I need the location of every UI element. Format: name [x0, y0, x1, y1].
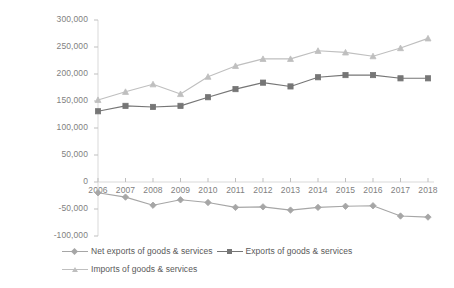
legend-row-1: Net exports of goods & services Exports …: [62, 246, 454, 256]
data-point: [205, 95, 210, 100]
legend-label-imports: Imports of goods & services: [91, 264, 197, 274]
data-point: [315, 75, 320, 80]
data-point: [425, 35, 431, 41]
chart-legend: Net exports of goods & services Exports …: [62, 246, 454, 274]
data-point: [205, 199, 211, 205]
data-point: [150, 202, 156, 208]
data-point: [260, 204, 266, 210]
data-point: [425, 214, 431, 220]
data-point: [425, 76, 430, 81]
line-chart: 300,000250,000200,000150,000100,00050,00…: [0, 0, 454, 288]
data-point: [95, 190, 101, 196]
legend-marker-square: [227, 249, 232, 254]
data-point: [370, 72, 375, 77]
legend-item-exports[interactable]: Exports of goods & services: [217, 246, 353, 256]
data-point: [150, 81, 156, 87]
legend-key-net-exports: [62, 246, 88, 256]
data-point: [177, 197, 183, 203]
data-point: [260, 80, 265, 85]
legend-key-exports: [217, 246, 243, 256]
legend-marker-triangle: [72, 267, 78, 272]
data-point: [315, 204, 321, 210]
data-point: [205, 74, 211, 80]
series-line-2: [98, 38, 428, 100]
legend-key-imports: [62, 264, 88, 274]
data-point: [233, 87, 238, 92]
data-point: [232, 204, 238, 210]
data-point: [95, 109, 100, 114]
data-point: [398, 76, 403, 81]
legend-label-net-exports: Net exports of goods & services: [91, 246, 213, 256]
data-point: [287, 207, 293, 213]
legend-row-2: Imports of goods & services: [62, 264, 454, 274]
data-point: [122, 194, 128, 200]
data-point: [370, 203, 376, 209]
data-point: [150, 104, 155, 109]
plot-area: [0, 0, 454, 288]
data-point: [343, 72, 348, 77]
data-point: [397, 213, 403, 219]
data-point: [288, 84, 293, 89]
legend-item-net-exports[interactable]: Net exports of goods & services: [62, 246, 213, 256]
legend-item-imports[interactable]: Imports of goods & services: [62, 264, 197, 274]
legend-label-exports: Exports of goods & services: [246, 246, 353, 256]
data-point: [123, 103, 128, 108]
legend-marker-diamond: [71, 247, 78, 254]
data-point: [342, 203, 348, 209]
data-point: [178, 103, 183, 108]
